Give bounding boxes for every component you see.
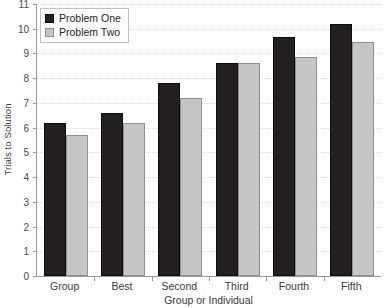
bar-group (324, 4, 381, 276)
bar-group (152, 4, 209, 276)
bar (330, 24, 352, 276)
y-axis-tick-label: 1 (23, 246, 29, 257)
y-axis-tick-labels: 01234567891011 (14, 0, 33, 278)
y-axis-title-label: Trials to Solution (2, 103, 13, 175)
bar-group (209, 4, 266, 276)
bar (180, 98, 202, 276)
bar (66, 135, 88, 276)
y-axis-tick-label: 8 (23, 73, 29, 84)
bar (273, 37, 295, 276)
y-axis-tick-label: 0 (23, 271, 29, 282)
plot-area (36, 4, 381, 277)
bar (158, 83, 180, 276)
y-axis-tick-label: 6 (23, 122, 29, 133)
bar-group (94, 4, 151, 276)
x-axis-tick-label: Third (225, 280, 249, 292)
bar (44, 123, 66, 276)
bar (216, 63, 238, 276)
x-axis-tick-label: Best (111, 280, 132, 292)
legend-item-label: Problem Two (59, 26, 120, 39)
bar-chart: Trials to Solution 01234567891011 GroupB… (0, 0, 384, 308)
y-axis-tick-label: 10 (18, 23, 29, 34)
bar (101, 113, 123, 276)
x-axis-tick-label: Fourth (279, 280, 309, 292)
y-axis-tick-mark (33, 276, 37, 277)
legend-swatch-icon (45, 28, 54, 37)
bar-group (37, 4, 94, 276)
x-axis-tick-label: Second (162, 280, 198, 292)
x-axis-tick-label: Group (50, 280, 79, 292)
chart-legend: Problem One Problem Two (40, 8, 129, 43)
legend-swatch-icon (45, 14, 54, 23)
bars-layer (37, 4, 381, 276)
bar (238, 63, 260, 276)
y-axis-tick-label: 11 (19, 0, 29, 10)
y-axis-title: Trials to Solution (0, 0, 14, 278)
y-axis-tick-label: 2 (23, 221, 29, 232)
y-axis-tick-label: 9 (23, 48, 29, 59)
bar-group (266, 4, 323, 276)
bar (123, 123, 145, 276)
y-axis-tick-label: 3 (23, 196, 29, 207)
bar (295, 57, 317, 276)
legend-item: Problem Two (45, 26, 121, 39)
y-axis-tick-label: 4 (23, 172, 29, 183)
x-axis-tick-label: Fifth (341, 280, 361, 292)
x-axis-title: Group or Individual (36, 294, 381, 306)
legend-item-label: Problem One (59, 12, 121, 25)
bar (352, 42, 374, 276)
legend-item: Problem One (45, 12, 121, 25)
y-axis-tick-label: 5 (23, 147, 29, 158)
y-axis-tick-label: 7 (23, 97, 29, 108)
